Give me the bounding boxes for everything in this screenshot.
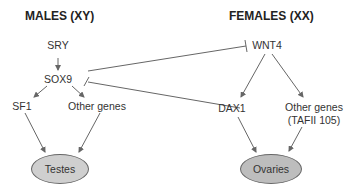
other-genes-female-label: Other genes: [285, 101, 343, 114]
sox9-inhibition-bar: [84, 77, 89, 86]
wnt4-to-dax1-arrow: [241, 54, 265, 97]
tafii-label: (TAFII 105): [285, 114, 343, 127]
males-header: MALES (XY): [25, 9, 94, 23]
othergenes-to-ovaries-arrow: [289, 127, 302, 151]
othergenes-to-testes-arrow: [79, 113, 100, 152]
other-genes-male-node: Other genes: [68, 100, 126, 112]
sry-node: SRY: [47, 39, 68, 51]
dax1-node: DAX1: [218, 102, 245, 114]
ovaries-node: Ovaries: [240, 154, 302, 184]
sex-determination-diagram: MALES (XY) FEMALES (XX) SRY SOX9 SF1 Oth…: [0, 0, 355, 196]
sox9-inhibits-wnt4: [88, 46, 246, 71]
sf1-to-testes-arrow: [25, 113, 45, 152]
other-genes-female-node: Other genes (TAFII 105): [285, 101, 343, 127]
testes-node: Testes: [31, 154, 89, 184]
sf1-node: SF1: [12, 100, 31, 112]
sox9-to-sf1-arrow: [34, 86, 47, 97]
females-header: FEMALES (XX): [229, 9, 314, 23]
sox9-node: SOX9: [44, 73, 72, 85]
sox9-to-othergenes-arrow: [72, 86, 84, 97]
wnt4-node: WNT4: [252, 39, 282, 51]
wnt4-to-othergenes-arrow: [272, 54, 303, 97]
dax1-to-ovaries-arrow: [238, 117, 256, 152]
